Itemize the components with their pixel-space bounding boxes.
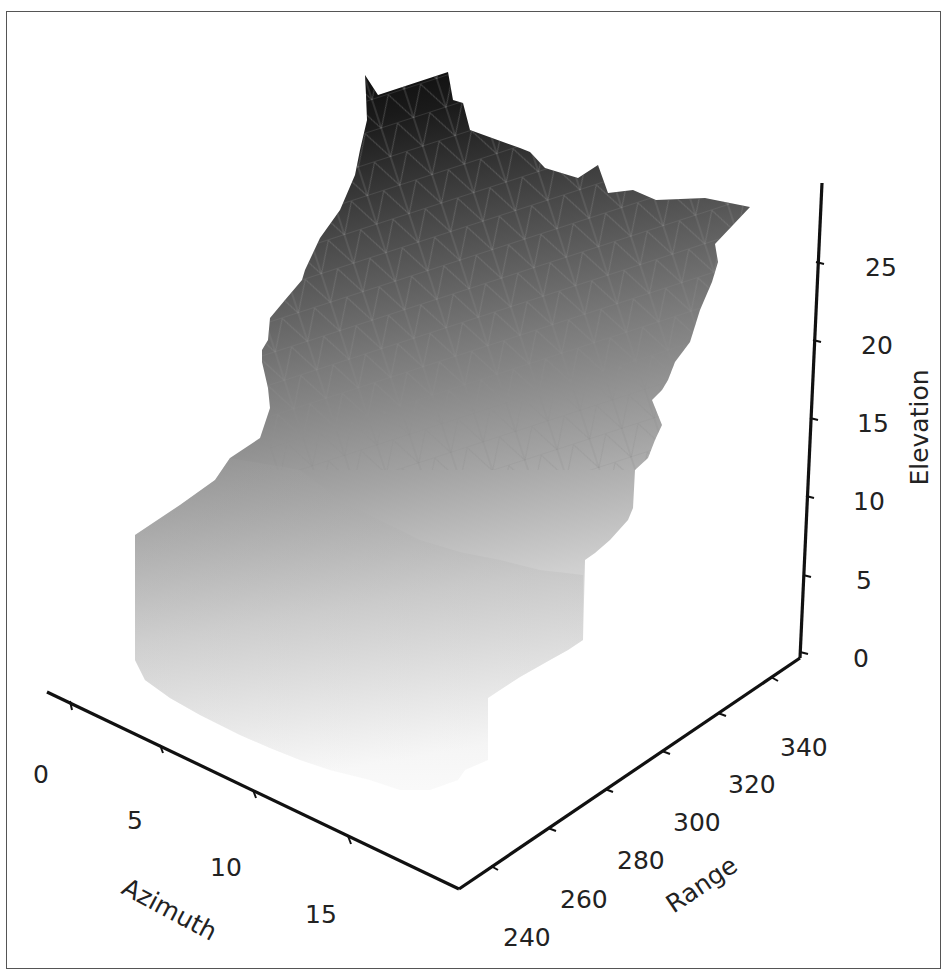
azimuth-tick-10: 10 — [210, 855, 242, 880]
azimuth-tick-15: 15 — [305, 902, 337, 927]
range-tick-240: 240 — [503, 925, 551, 950]
range-tick-320: 320 — [728, 772, 776, 797]
elevation-tick-15: 15 — [857, 411, 889, 436]
elevation-tick-10: 10 — [853, 489, 885, 514]
surface-mesh — [135, 72, 750, 790]
elevation-tick-5: 5 — [856, 568, 872, 593]
range-tick-260: 260 — [560, 887, 608, 912]
elevation-tick-25: 25 — [865, 255, 897, 280]
range-tick-340: 340 — [780, 735, 828, 760]
elevation-axis-title: Elevation — [907, 369, 932, 485]
azimuth-tick-0: 0 — [33, 762, 49, 787]
elevation-tick-0: 0 — [853, 646, 869, 671]
elevation-axis — [800, 183, 824, 658]
range-tick-300: 300 — [673, 810, 721, 835]
azimuth-tick-5: 5 — [127, 808, 143, 833]
range-tick-280: 280 — [617, 848, 665, 873]
elevation-tick-20: 20 — [861, 333, 893, 358]
